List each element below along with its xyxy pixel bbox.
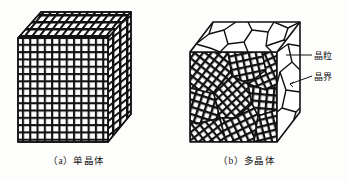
caption-panel-b: （b）多晶体 <box>218 153 275 167</box>
panel-b-polycrystal <box>190 22 312 142</box>
cube-a-front-face <box>18 38 108 142</box>
annotation-label-grain-boundary: 晶界 <box>314 70 333 83</box>
cube-b-front-face <box>190 52 277 142</box>
figure-root: （a）单晶体 （b）多晶体 晶粒 晶界 <box>0 0 348 181</box>
caption-panel-a: （a）单晶体 <box>48 153 105 167</box>
panel-a-single-crystal <box>18 12 131 142</box>
annotation-label-grain: 晶粒 <box>314 49 333 62</box>
